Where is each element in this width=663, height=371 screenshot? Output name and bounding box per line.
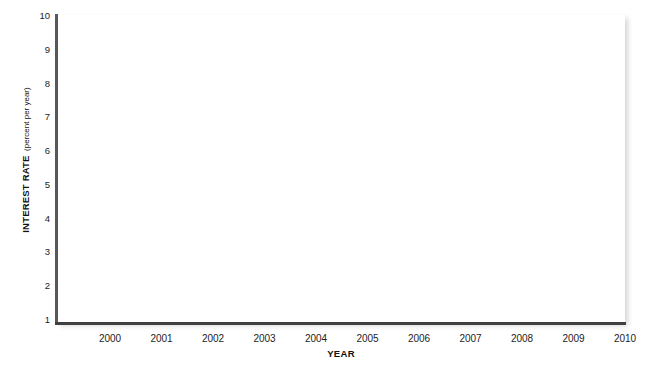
y-axis-title-units: (percent per year): [22, 87, 31, 151]
scan-noise-overlay: [57, 15, 625, 323]
y-axis-title: INTEREST RATE (percent per year): [16, 60, 32, 260]
x-tick-label: 2000: [99, 334, 121, 344]
x-tick-label: 2004: [305, 334, 327, 344]
y-tick-label: 10: [28, 11, 50, 21]
x-axis-title-label: YEAR: [327, 349, 355, 359]
y-tick-label: 1: [28, 315, 50, 325]
x-tick-label: 2003: [253, 334, 275, 344]
x-tick-label: 2001: [150, 334, 172, 344]
y-axis-title-main: INTEREST RATE: [20, 155, 31, 232]
chart-screenshot: 10987654321 2000200120022003200420052006…: [0, 0, 663, 371]
y-axis-line: [55, 14, 58, 325]
x-tick-label: 2005: [356, 334, 378, 344]
plot-area: [57, 15, 625, 323]
y-tick-label: 9: [28, 45, 50, 55]
x-tick-label: 2008: [511, 334, 533, 344]
x-tick-label: 2006: [408, 334, 430, 344]
x-axis-line: [55, 322, 626, 325]
x-tick-label: 2007: [459, 334, 481, 344]
x-tick-label: 2010: [614, 334, 636, 344]
y-tick-label: 2: [28, 281, 50, 291]
x-tick-label: 2002: [202, 334, 224, 344]
x-tick-label: 2009: [562, 334, 584, 344]
x-axis-tick-labels: 2000200120022003200420052006200720082009…: [0, 334, 663, 348]
